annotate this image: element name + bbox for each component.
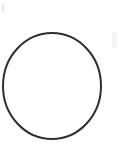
canvas-background: [0, 0, 124, 156]
drawing-canvas: A single thin dark circle outline center…: [0, 0, 124, 156]
circle-drawing-svg: [0, 0, 124, 156]
